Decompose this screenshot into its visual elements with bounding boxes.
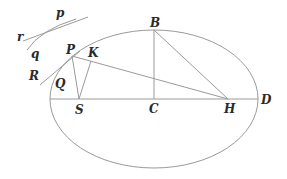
label-p-small: p bbox=[56, 6, 65, 20]
line-SK bbox=[79, 61, 91, 99]
label-Q: Q bbox=[55, 77, 66, 91]
label-K: K bbox=[87, 46, 99, 60]
label-H: H bbox=[223, 102, 236, 116]
label-C: C bbox=[149, 102, 159, 116]
label-S: S bbox=[75, 103, 84, 117]
label-R: R bbox=[28, 69, 39, 83]
ellipse-diagram: p r q R P K Q S C B H D bbox=[0, 0, 287, 179]
label-r: r bbox=[17, 30, 25, 44]
label-q: q bbox=[31, 47, 39, 61]
label-P: P bbox=[65, 43, 76, 57]
label-D: D bbox=[260, 93, 272, 107]
line-PS bbox=[72, 56, 79, 99]
label-B: B bbox=[149, 16, 160, 30]
tangent-line-small bbox=[23, 17, 88, 41]
